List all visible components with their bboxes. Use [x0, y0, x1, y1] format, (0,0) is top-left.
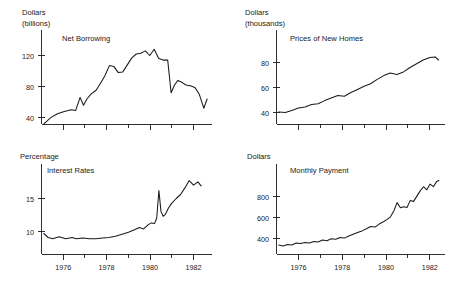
panel-monthly-payment: Dollars Monthly Payment 800 600 400 — [227, 142, 454, 284]
x-tick-label-1980: 1980 — [142, 263, 158, 272]
y-axis-unit-label: (billions) — [22, 19, 51, 28]
data-series-line — [279, 180, 439, 246]
panel-title: Interest Rates — [47, 166, 94, 175]
data-series-line — [44, 49, 207, 124]
panel-title: Monthly Payment — [290, 166, 350, 175]
y-tick-label-10: 10 — [26, 228, 34, 237]
panel-title: Net Borrowing — [62, 34, 110, 43]
four-panel-line-chart-figure: Dollars (billions) Net Borrowing 120 80 … — [0, 0, 454, 284]
y-tick-label-60: 60 — [261, 84, 269, 93]
y-tick-label-40: 40 — [261, 109, 269, 118]
panel-net-borrowing: Dollars (billions) Net Borrowing 120 80 … — [0, 0, 227, 142]
panel-interest-rates: Percentage Interest Rates 15 10 1976 197… — [0, 142, 227, 284]
y-tick-label-80: 80 — [26, 83, 34, 92]
interest-rates-svg: Percentage Interest Rates 15 10 1976 197… — [0, 142, 227, 284]
prices-of-new-homes-svg: Dollars (thousands) Prices of New Homes … — [227, 0, 454, 142]
y-tick-label-120: 120 — [22, 52, 34, 61]
y-axis-label: Dollars — [22, 8, 46, 17]
x-tick-label-1978: 1978 — [334, 263, 350, 272]
y-tick-label-80: 80 — [261, 59, 269, 68]
monthly-payment-svg: Dollars Monthly Payment 800 600 400 — [227, 142, 454, 284]
net-borrowing-svg: Dollars (billions) Net Borrowing 120 80 … — [0, 0, 227, 142]
panel-prices-of-new-homes: Dollars (thousands) Prices of New Homes … — [227, 0, 454, 142]
x-tick-label-1976: 1976 — [290, 263, 306, 272]
y-tick-label-800: 800 — [257, 193, 269, 202]
y-tick-label-600: 600 — [257, 214, 269, 223]
x-tick-label-1976: 1976 — [55, 263, 71, 272]
y-axis-label: Dollars — [245, 8, 269, 17]
y-tick-label-40: 40 — [26, 114, 34, 123]
data-series-line — [279, 57, 439, 113]
panel-title: Prices of New Homes — [290, 34, 363, 43]
y-tick-label-15: 15 — [26, 195, 34, 204]
y-tick-label-400: 400 — [257, 235, 269, 244]
x-tick-label-1982: 1982 — [185, 263, 201, 272]
y-axis-label: Percentage — [20, 152, 59, 161]
x-tick-label-1982: 1982 — [422, 263, 438, 272]
x-tick-label-1978: 1978 — [99, 263, 115, 272]
y-axis-unit-label: (thousands) — [245, 19, 286, 28]
y-axis-label: Dollars — [247, 152, 271, 161]
x-tick-label-1980: 1980 — [378, 263, 394, 272]
data-series-line — [44, 181, 201, 239]
